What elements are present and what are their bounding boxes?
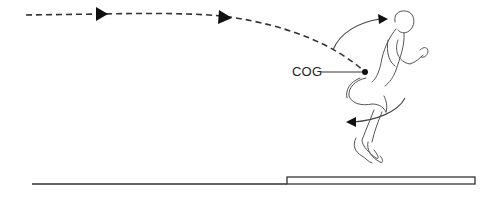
sprinter-figure <box>347 11 428 163</box>
figure-head <box>395 11 414 33</box>
figure-back-arm <box>387 40 395 66</box>
trajectory-arrow-2-icon <box>218 10 232 24</box>
rotation-arrowhead-upper-icon <box>378 14 388 24</box>
figure-shin <box>362 110 378 158</box>
forward-rotation-arrow-upper <box>333 19 380 50</box>
rotation-arrowhead-lower-icon <box>346 117 356 127</box>
figure-shin-back <box>372 112 382 142</box>
figure-hand <box>420 48 428 58</box>
diagram-canvas <box>0 0 490 199</box>
figure-thigh <box>349 78 386 112</box>
center-of-gravity-dot <box>362 69 368 75</box>
cog-label: COG <box>292 64 322 79</box>
takeoff-board <box>287 177 475 184</box>
figure-foot-1 <box>354 138 372 163</box>
figure-torso-back <box>372 29 396 82</box>
backward-rotation-arrow-lower <box>352 98 405 122</box>
trajectory-arrow-1-icon <box>96 7 108 21</box>
figure-arm <box>397 40 424 64</box>
